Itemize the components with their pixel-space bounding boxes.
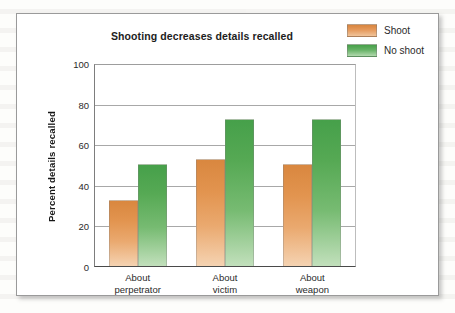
bar-group xyxy=(109,65,167,266)
x-axis-label-line: perpetrator xyxy=(98,284,178,296)
chart-legend: Shoot No shoot xyxy=(347,24,424,57)
y-tick-label: 20 xyxy=(78,221,89,232)
bar-groups xyxy=(95,65,355,266)
bar-shoot[interactable] xyxy=(196,159,225,266)
legend-label-no-shoot: No shoot xyxy=(384,45,424,56)
x-axis-label-line: About xyxy=(300,272,325,283)
plot-area xyxy=(94,64,356,267)
legend-label-shoot: Shoot xyxy=(384,25,410,36)
y-axis-title: Percent details recalled xyxy=(43,92,59,242)
x-axis-label: Aboutweapon xyxy=(272,272,352,296)
x-axis-label-line: About xyxy=(125,272,150,283)
x-axis-label: Aboutvictim xyxy=(185,272,265,296)
bar-group xyxy=(196,65,254,266)
gridline-0 xyxy=(95,266,355,267)
bar-group xyxy=(283,65,341,266)
bar-no-shoot[interactable] xyxy=(225,119,254,266)
legend-item-shoot[interactable]: Shoot xyxy=(347,24,424,37)
x-axis-label-line: About xyxy=(213,272,238,283)
legend-swatch-icon-no-shoot xyxy=(347,44,377,57)
y-tick-label: 80 xyxy=(78,99,89,110)
plot-wrapper: 020406080100 xyxy=(94,64,356,267)
y-tick-label: 40 xyxy=(78,180,89,191)
x-axis-label-line: weapon xyxy=(272,284,352,296)
bar-shoot[interactable] xyxy=(283,164,312,267)
y-tick-label: 100 xyxy=(73,59,89,70)
bar-shoot[interactable] xyxy=(109,200,138,266)
y-tick-label: 60 xyxy=(78,140,89,151)
legend-swatch-icon-shoot xyxy=(347,24,377,37)
legend-item-no-shoot[interactable]: No shoot xyxy=(347,44,424,57)
x-axis-label: Aboutperpetrator xyxy=(98,272,178,296)
x-axis-labels: AboutperpetratorAboutvictimAboutweapon xyxy=(94,272,356,296)
y-tick-label: 0 xyxy=(84,262,89,273)
bar-no-shoot[interactable] xyxy=(312,119,341,266)
bar-no-shoot[interactable] xyxy=(138,164,167,267)
chart-title: Shooting decreases details recalled xyxy=(77,30,327,42)
figure-frame: Shooting decreases details recalled Shoo… xyxy=(16,13,439,296)
x-axis-label-line: victim xyxy=(185,284,265,296)
